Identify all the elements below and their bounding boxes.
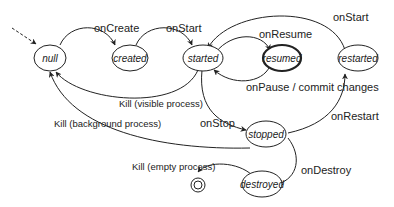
state-label: restarted	[338, 53, 378, 64]
state-created: created	[112, 45, 148, 71]
label-onCreate: onCreate	[94, 22, 139, 34]
initial-transition	[12, 28, 36, 44]
state-label: destroyed	[240, 179, 284, 190]
label-kill-empty: Kill (empty process)	[132, 161, 215, 172]
edge-onPause	[214, 66, 270, 81]
label-onRestart: onRestart	[331, 110, 379, 122]
state-label: started	[188, 53, 219, 64]
state-null: null	[34, 45, 66, 71]
final-state-icon	[191, 178, 205, 192]
state-started: started	[183, 45, 223, 71]
state-restarted: restarted	[338, 45, 378, 71]
state-resumed: resumed	[263, 45, 302, 71]
label-onStart: onStart	[166, 22, 201, 34]
state-label: resumed	[263, 53, 302, 64]
label-kill-visible: Kill (visible process)	[119, 98, 203, 109]
edge-kill-background	[50, 72, 250, 148]
label-onStop: onStop	[200, 117, 235, 129]
label-onResume: onResume	[259, 28, 312, 40]
state-stopped: stopped	[246, 121, 286, 147]
label-kill-background: Kill (background process)	[54, 118, 161, 129]
label-onStart-restart: onStart	[333, 11, 368, 23]
edge-kill-visible	[56, 70, 198, 98]
state-label: stopped	[248, 129, 284, 140]
state-destroyed: destroyed	[240, 171, 284, 197]
edge-onDestroy	[278, 138, 296, 184]
label-onPause: onPause / commit changes	[246, 81, 379, 93]
label-onDestroy: onDestroy	[301, 164, 352, 176]
state-label: created	[113, 53, 147, 64]
state-label: null	[42, 53, 58, 64]
state-diagram: null created started resumed restarted s…	[0, 0, 394, 207]
